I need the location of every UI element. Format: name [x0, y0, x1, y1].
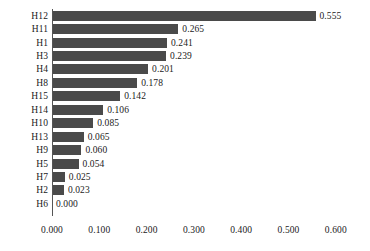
plot-area: H120.555H110.265H10.241H30.239H40.201H80… [0, 0, 370, 251]
category-label: H3 [36, 51, 48, 61]
bar-chart: H120.555H110.265H10.241H30.239H40.201H80… [0, 0, 370, 251]
bar-value-label: 0.265 [182, 24, 204, 34]
bar-row: H40.201 [0, 63, 370, 76]
bar-value-label: 0.023 [68, 185, 90, 195]
bar-row: H20.023 [0, 184, 370, 197]
bar-and-value: 0.060 [53, 145, 107, 155]
bar [53, 38, 167, 48]
bar-value-label: 0.239 [170, 51, 192, 61]
bar-value-label: 0.201 [152, 64, 174, 74]
bar-value-label: 0.060 [85, 145, 107, 155]
bar-row: H90.060 [0, 143, 370, 156]
bar-row: H130.065 [0, 130, 370, 143]
bar [53, 118, 93, 128]
bar-rows: H120.555H110.265H10.241H30.239H40.201H80… [0, 9, 370, 211]
bar-value-label: 0.555 [320, 11, 342, 21]
x-tick-label: 0.100 [88, 225, 110, 235]
bar-and-value: 0.065 [53, 132, 110, 142]
bar-row: H100.085 [0, 117, 370, 130]
bar-value-label: 0.085 [97, 118, 119, 128]
bar-row: H120.555 [0, 9, 370, 22]
x-tick-label: 0.400 [230, 225, 252, 235]
category-label: H9 [36, 145, 48, 155]
bar-value-label: 0.065 [88, 132, 110, 142]
category-label: H7 [36, 172, 48, 182]
bar-row: H60.000 [0, 197, 370, 210]
x-tick-label: 0.200 [136, 225, 158, 235]
bar-and-value: 0.201 [53, 64, 174, 74]
bar-value-label: 0.025 [69, 172, 91, 182]
category-label: H11 [32, 24, 48, 34]
category-label: H2 [36, 185, 48, 195]
category-label: H6 [36, 199, 48, 209]
category-label: H5 [36, 159, 48, 169]
bar-value-label: 0.106 [107, 105, 129, 115]
x-axis-tick-labels: 0.0000.1000.2000.3000.4000.5000.600 [0, 225, 370, 239]
x-tick-label: 0.600 [325, 225, 347, 235]
bar-row: H30.239 [0, 49, 370, 62]
bar-and-value: 0.023 [53, 185, 90, 195]
bar-and-value: 0.025 [53, 172, 91, 182]
bar-row: H140.106 [0, 103, 370, 116]
bar-and-value: 0.239 [53, 51, 192, 61]
bar-and-value: 0.106 [53, 105, 129, 115]
bar-and-value: 0.054 [53, 159, 104, 169]
bar-and-value: 0.000 [53, 199, 78, 209]
bar-and-value: 0.178 [53, 78, 163, 88]
category-label: H14 [31, 105, 48, 115]
bar [53, 185, 64, 195]
bar-row: H150.142 [0, 90, 370, 103]
bar-row: H80.178 [0, 76, 370, 89]
bar [53, 145, 81, 155]
category-label: H13 [31, 132, 48, 142]
x-tick-label: 0.500 [278, 225, 300, 235]
category-label: H8 [36, 78, 48, 88]
bar [53, 159, 79, 169]
bar-row: H10.241 [0, 36, 370, 49]
bar-value-label: 0.178 [141, 78, 163, 88]
bar-row: H110.265 [0, 22, 370, 35]
bar [53, 91, 120, 101]
bar [53, 172, 65, 182]
bar-value-label: 0.054 [83, 159, 105, 169]
bar [53, 132, 84, 142]
bar [53, 11, 316, 21]
bar-and-value: 0.142 [53, 91, 146, 101]
category-label: H10 [31, 118, 48, 128]
bar [53, 105, 103, 115]
bar-and-value: 0.555 [53, 11, 341, 21]
bar [53, 78, 137, 88]
bar-row: H50.054 [0, 157, 370, 170]
x-tick-label: 0.000 [41, 225, 63, 235]
bar-value-label: 0.241 [171, 38, 193, 48]
category-label: H1 [36, 38, 48, 48]
bar [53, 64, 148, 74]
bar-and-value: 0.085 [53, 118, 119, 128]
bar-value-label: 0.000 [56, 199, 78, 209]
category-label: H4 [36, 64, 48, 74]
bar-and-value: 0.265 [53, 24, 204, 34]
category-label: H12 [31, 11, 48, 21]
bar-row: H70.025 [0, 170, 370, 183]
category-label: H15 [31, 91, 48, 101]
bar [53, 51, 166, 61]
bar-and-value: 0.241 [53, 38, 193, 48]
x-tick-label: 0.300 [183, 225, 205, 235]
bar [53, 24, 178, 34]
bar-value-label: 0.142 [124, 91, 146, 101]
